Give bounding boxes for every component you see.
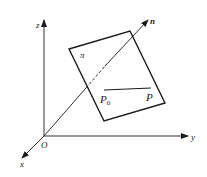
plane-pi	[69, 31, 165, 121]
normal-vector-hidden	[86, 66, 105, 88]
y-axis-label: y	[190, 132, 195, 142]
origin-label: O	[41, 140, 48, 150]
plane-label: π	[80, 50, 85, 60]
normal-label: n	[150, 16, 155, 26]
x-axis-label: x	[19, 159, 24, 169]
normal-vector-back	[105, 20, 148, 66]
p-label: P	[145, 91, 153, 103]
z-axis-label: z	[35, 20, 40, 30]
segment-p0-p	[104, 88, 151, 90]
diagram-canvas: z y x O n π P0 P	[0, 0, 207, 177]
p0-label: P0	[99, 93, 111, 107]
normal-vector-front	[44, 88, 86, 136]
